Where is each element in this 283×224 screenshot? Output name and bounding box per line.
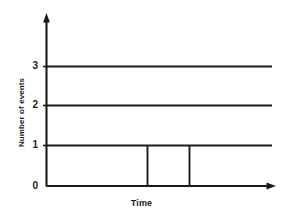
x-axis xyxy=(47,182,277,189)
x-axis-title: Time xyxy=(0,198,283,208)
y-axis-arrowhead-icon xyxy=(43,13,50,23)
y-tick-label-2: 2 xyxy=(24,100,38,110)
y-tick-label-3: 3 xyxy=(24,61,38,71)
x-axis-arrowhead-icon xyxy=(267,182,277,189)
y-tick-label-0: 0 xyxy=(24,181,38,191)
chart-figure: 3 2 1 0 Number of events Time xyxy=(0,0,283,224)
y-axis xyxy=(43,13,50,187)
chart-plot-area xyxy=(0,0,283,224)
y-tick-label-1: 1 xyxy=(24,140,38,150)
y-axis-title: Number of events xyxy=(17,51,26,175)
event-interval-block xyxy=(148,146,190,187)
